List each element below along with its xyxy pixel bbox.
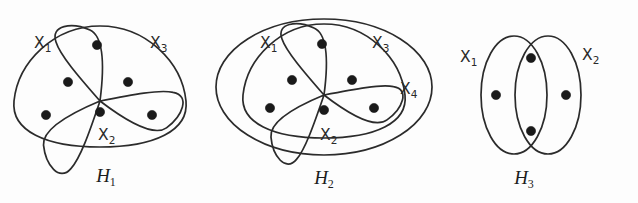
h2-edge-label-x4: X4 xyxy=(400,80,418,100)
hypergraph-panel-h2: X1 X3 X4 X2 H2 xyxy=(212,0,444,203)
h2-hyperedge-x2 xyxy=(281,24,326,95)
h1-vertex xyxy=(123,77,132,86)
hypergraph-h1-svg: X1 X3 X2 H1 xyxy=(0,0,212,203)
h3-hyperedge-x2 xyxy=(515,36,581,154)
h2-edge-label-x3: X3 xyxy=(372,34,389,54)
h1-edge-label-x1: X1 xyxy=(34,34,51,54)
h1-vertex xyxy=(147,110,156,119)
h1-caption: H1 xyxy=(95,165,116,189)
hypergraph-panel-h3: X1 X2 H3 xyxy=(444,0,638,203)
h3-caption: H3 xyxy=(513,167,534,191)
h3-hyperedge-x1 xyxy=(481,36,547,154)
h2-caption: H2 xyxy=(313,167,334,191)
h1-vertex xyxy=(92,40,101,49)
h3-vertex xyxy=(526,126,535,135)
h2-vertex xyxy=(265,103,274,112)
h3-vertex xyxy=(561,90,570,99)
h1-vertex xyxy=(63,77,72,86)
h2-vertex xyxy=(369,103,378,112)
hypergraph-panel-h1: X1 X3 X2 H1 xyxy=(0,0,212,203)
h2-edge-label-x1: X1 xyxy=(260,34,277,54)
h2-edge-label-x2: X2 xyxy=(320,126,337,146)
h1-vertex xyxy=(41,110,50,119)
h3-edge-label-x1: X1 xyxy=(460,48,477,68)
h3-vertex xyxy=(526,53,535,62)
h1-hyperedge-x2 xyxy=(55,26,103,101)
hypergraph-h3-svg: X1 X2 H3 xyxy=(444,0,638,203)
h2-vertex xyxy=(287,75,296,84)
hypergraph-h2-svg: X1 X3 X4 X2 H2 xyxy=(212,0,444,203)
h1-edge-label-x3: X3 xyxy=(150,34,167,54)
hypergraph-figure: X1 X3 X2 H1 X1 xyxy=(0,0,638,203)
h3-edge-label-x2: X2 xyxy=(582,46,599,66)
h1-vertex xyxy=(95,107,104,116)
h2-vertex xyxy=(317,39,326,48)
h3-vertex xyxy=(491,90,500,99)
h2-vertex xyxy=(347,75,356,84)
h2-vertex xyxy=(319,105,328,114)
h1-edge-label-x2: X2 xyxy=(98,126,115,146)
h2-hyperedge-x1 xyxy=(261,93,345,168)
